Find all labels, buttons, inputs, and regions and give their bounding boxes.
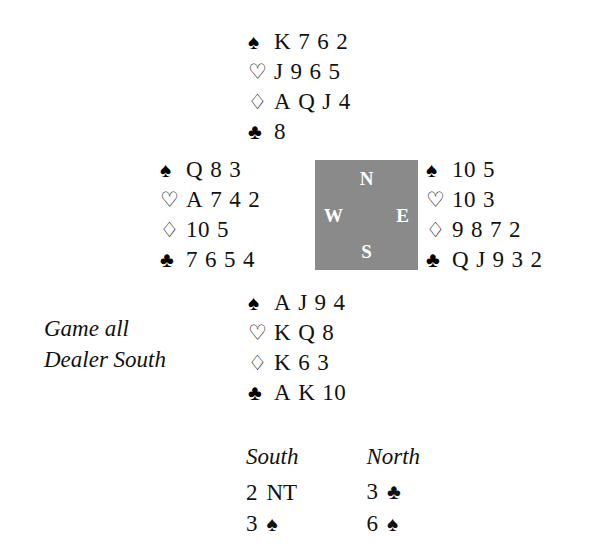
hand-south-spades-row: ♠ AJ94 bbox=[248, 288, 346, 318]
hand-south-hearts-cards: KQ8 bbox=[274, 318, 334, 348]
auction-header-row: South North bbox=[246, 444, 420, 476]
diamond-icon: ♢ bbox=[248, 87, 274, 117]
hand-east-diamonds-row: ♢ 9872 bbox=[426, 215, 543, 245]
compass-east-label: E bbox=[396, 206, 409, 225]
hand-north: ♠ K762 ♡ J965 ♢ AQJ4 ♣ 8 bbox=[248, 27, 351, 147]
hand-east-diamonds-cards: 9872 bbox=[452, 215, 521, 245]
spade-icon: ♠ bbox=[267, 512, 278, 536]
auction-bid-north-1: 3♣ bbox=[366, 476, 420, 508]
hand-south-clubs-cards: AK10 bbox=[274, 378, 346, 408]
hand-north-diamonds-row: ♢ AQJ4 bbox=[248, 87, 351, 117]
auction-header-south: South bbox=[246, 444, 366, 476]
spade-icon: ♠ bbox=[248, 27, 274, 57]
hand-north-diamonds-cards: AQJ4 bbox=[274, 87, 351, 117]
hand-west-clubs-row: ♣ 7654 bbox=[160, 245, 260, 275]
heart-icon: ♡ bbox=[248, 57, 274, 87]
spade-icon: ♠ bbox=[248, 288, 274, 318]
hand-north-hearts-cards: J965 bbox=[274, 57, 340, 87]
auction-bid-south-1: 2NT bbox=[246, 476, 366, 508]
spade-icon: ♠ bbox=[426, 155, 452, 185]
bid-level: 6 bbox=[366, 511, 378, 536]
club-icon: ♣ bbox=[160, 245, 186, 275]
diamond-icon: ♢ bbox=[160, 215, 186, 245]
dealer-text: Dealer South bbox=[44, 344, 166, 375]
bridge-deal-diagram: ♠ K762 ♡ J965 ♢ AQJ4 ♣ 8 ♠ Q83 ♡ A742 ♢ … bbox=[0, 0, 615, 555]
hand-east-hearts-row: ♡ 103 bbox=[426, 185, 543, 215]
club-icon: ♣ bbox=[248, 378, 274, 408]
spade-icon: ♠ bbox=[160, 155, 186, 185]
bid-level: 3 bbox=[246, 511, 258, 536]
auction-header-north: North bbox=[366, 444, 420, 476]
heart-icon: ♡ bbox=[426, 185, 452, 215]
hand-north-hearts-row: ♡ J965 bbox=[248, 57, 351, 87]
hand-south: ♠ AJ94 ♡ KQ8 ♢ K63 ♣ AK10 bbox=[248, 288, 346, 408]
diamond-icon: ♢ bbox=[426, 215, 452, 245]
auction-table-wrapper: South North 2NT 3♣ 3♠ bbox=[246, 444, 420, 540]
hand-south-diamonds-cards: K63 bbox=[274, 348, 329, 378]
bid-level: 3 bbox=[366, 479, 378, 504]
hand-south-clubs-row: ♣ AK10 bbox=[248, 378, 346, 408]
compass-west-label: W bbox=[324, 206, 343, 225]
compass-south-label: S bbox=[361, 242, 372, 261]
diamond-icon: ♢ bbox=[248, 348, 274, 378]
compass-north-label: N bbox=[360, 169, 374, 188]
hand-east-clubs-row: ♣ QJ932 bbox=[426, 245, 543, 275]
club-icon: ♣ bbox=[248, 117, 274, 147]
hand-east-spades-row: ♠ 105 bbox=[426, 155, 543, 185]
auction-row: 3♠ 6♠ bbox=[246, 508, 420, 540]
hand-west-clubs-cards: 7654 bbox=[186, 245, 255, 275]
club-icon: ♣ bbox=[426, 245, 452, 275]
spade-icon: ♠ bbox=[387, 512, 398, 536]
auction-bid-north-2: 6♠ bbox=[366, 508, 420, 540]
hand-north-clubs-row: ♣ 8 bbox=[248, 117, 351, 147]
hand-west-diamonds-cards: 105 bbox=[186, 215, 229, 245]
heart-icon: ♡ bbox=[248, 318, 274, 348]
club-icon: ♣ bbox=[387, 480, 401, 504]
hand-west-spades-cards: Q83 bbox=[186, 155, 241, 185]
hand-west: ♠ Q83 ♡ A742 ♢ 105 ♣ 7654 bbox=[160, 155, 260, 275]
hand-east-spades-cards: 105 bbox=[452, 155, 495, 185]
hand-north-spades-cards: K762 bbox=[274, 27, 348, 57]
hand-west-hearts-row: ♡ A742 bbox=[160, 185, 260, 215]
auction-bid-south-2: 3♠ bbox=[246, 508, 366, 540]
bid-level: 2 bbox=[246, 480, 258, 505]
auction-row: 2NT 3♣ bbox=[246, 476, 420, 508]
hand-south-diamonds-row: ♢ K63 bbox=[248, 348, 346, 378]
auction-table: South North 2NT 3♣ 3♠ bbox=[246, 444, 420, 540]
hand-north-spades-row: ♠ K762 bbox=[248, 27, 351, 57]
hand-west-diamonds-row: ♢ 105 bbox=[160, 215, 260, 245]
compass-box: N W E S bbox=[315, 160, 418, 270]
deal-conditions: Game all Dealer South bbox=[44, 313, 166, 375]
hand-north-clubs-cards: 8 bbox=[274, 117, 286, 147]
hand-south-spades-cards: AJ94 bbox=[274, 288, 346, 318]
hand-east-clubs-cards: QJ932 bbox=[452, 245, 543, 275]
bid-strain-notrump: NT bbox=[267, 480, 298, 505]
hand-south-hearts-row: ♡ KQ8 bbox=[248, 318, 346, 348]
hand-west-hearts-cards: A742 bbox=[186, 185, 260, 215]
hand-west-spades-row: ♠ Q83 bbox=[160, 155, 260, 185]
heart-icon: ♡ bbox=[160, 185, 186, 215]
vulnerability-text: Game all bbox=[44, 313, 166, 344]
hand-east-hearts-cards: 103 bbox=[452, 185, 495, 215]
hand-east: ♠ 105 ♡ 103 ♢ 9872 ♣ QJ932 bbox=[426, 155, 543, 275]
